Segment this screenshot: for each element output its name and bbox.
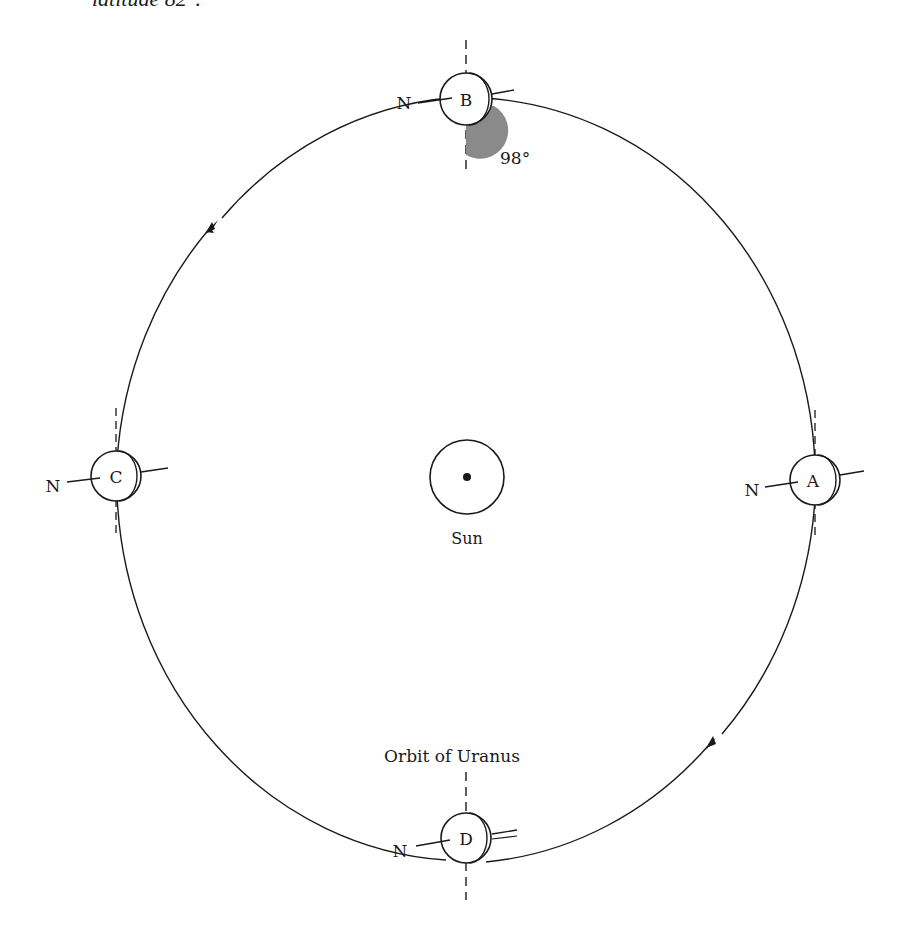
planet-position-b: N B 98° bbox=[397, 40, 531, 175]
sun-label: Sun bbox=[451, 529, 483, 548]
planet-position-c: N C bbox=[46, 408, 168, 538]
north-label: N bbox=[397, 93, 412, 113]
rotation-axis bbox=[492, 830, 517, 834]
north-label: N bbox=[46, 476, 61, 496]
orbit-title: Orbit of Uranus bbox=[384, 746, 520, 766]
sun: Sun bbox=[430, 440, 504, 548]
rotation-axis bbox=[492, 836, 517, 839]
north-label: N bbox=[393, 841, 408, 861]
rotation-axis bbox=[492, 90, 514, 94]
tilt-angle-label: 98° bbox=[500, 148, 530, 168]
planet-label-b: B bbox=[460, 90, 473, 110]
arrow-icon-lower-right bbox=[706, 736, 716, 750]
planet-label-c: C bbox=[109, 467, 122, 487]
sun-center-dot bbox=[463, 473, 471, 481]
caption-partial: latitude 82°. bbox=[92, 0, 201, 11]
planet-position-a: N A bbox=[745, 410, 864, 540]
rotation-axis bbox=[840, 471, 864, 475]
uranus-orbit-diagram: latitude 82°. Sun N B 98° bbox=[0, 0, 901, 933]
north-label: N bbox=[745, 480, 760, 500]
planet-label-d: D bbox=[459, 829, 473, 849]
planet-label-a: A bbox=[806, 471, 820, 491]
planet-position-d: N D Orbit of Uranus bbox=[384, 746, 520, 900]
rotation-axis bbox=[141, 468, 168, 472]
